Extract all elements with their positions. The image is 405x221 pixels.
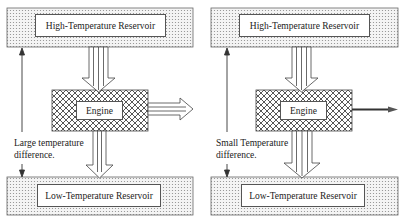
right-work-arrow <box>352 107 398 113</box>
left-engine-label: Engine <box>76 101 123 120</box>
left-heat-out-arrow <box>86 131 113 178</box>
right-heat-out-arrow <box>284 131 320 178</box>
right-note-line2: difference. <box>216 149 288 161</box>
right-heat-in-arrow <box>285 47 318 92</box>
right-note-line1: Small Temperature <box>216 137 288 149</box>
left-cold-reservoir-label: Low-Temperature Reservoir <box>37 184 161 207</box>
right-hot-reservoir-label: High-Temperature Reservoir <box>239 14 370 37</box>
left-hot-reservoir-label: High-Temperature Reservoir <box>35 14 166 37</box>
left-note-line2: difference. <box>14 149 84 161</box>
left-heat-in-arrow <box>82 47 115 92</box>
right-temp-diff-note: Small Temperature difference. <box>216 137 288 161</box>
right-engine-label: Engine <box>280 101 327 120</box>
left-work-arrow <box>148 98 193 120</box>
right-cold-reservoir-label: Low-Temperature Reservoir <box>241 184 365 207</box>
left-temp-diff-note: Large temperature difference. <box>14 137 84 161</box>
left-note-line1: Large temperature <box>14 137 84 149</box>
